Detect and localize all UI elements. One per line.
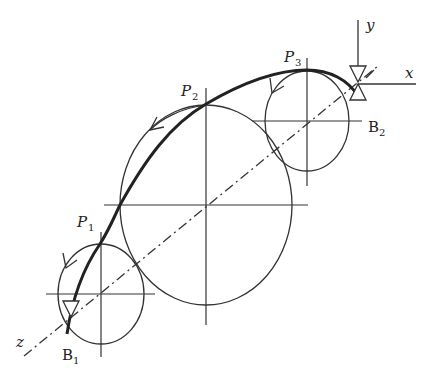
z-axis-line (24, 66, 378, 356)
p1-subscript: 1 (88, 222, 94, 233)
z-axis-label: z (15, 333, 24, 351)
b2-support-icon (350, 66, 366, 100)
b1-support-icon (63, 301, 79, 317)
b2-tick (366, 70, 374, 78)
p2-label: P (180, 82, 192, 100)
p3-subscript: 3 (295, 57, 301, 68)
y-axis-label: y (365, 16, 375, 34)
b1-subscript: 1 (73, 355, 79, 366)
b2-label: B (368, 118, 379, 136)
p2-subscript: 2 (192, 91, 198, 102)
b2-subscript: 2 (379, 127, 385, 138)
p1-label: P (76, 213, 88, 231)
diagram-canvas: y x z P 2 P 3 P 1 B 2 B 1 (0, 0, 434, 371)
b1-label: B (62, 346, 73, 364)
x-axis-label: x (405, 64, 414, 82)
p3-label: P (283, 48, 295, 66)
p1-arrow-icon (63, 253, 77, 268)
